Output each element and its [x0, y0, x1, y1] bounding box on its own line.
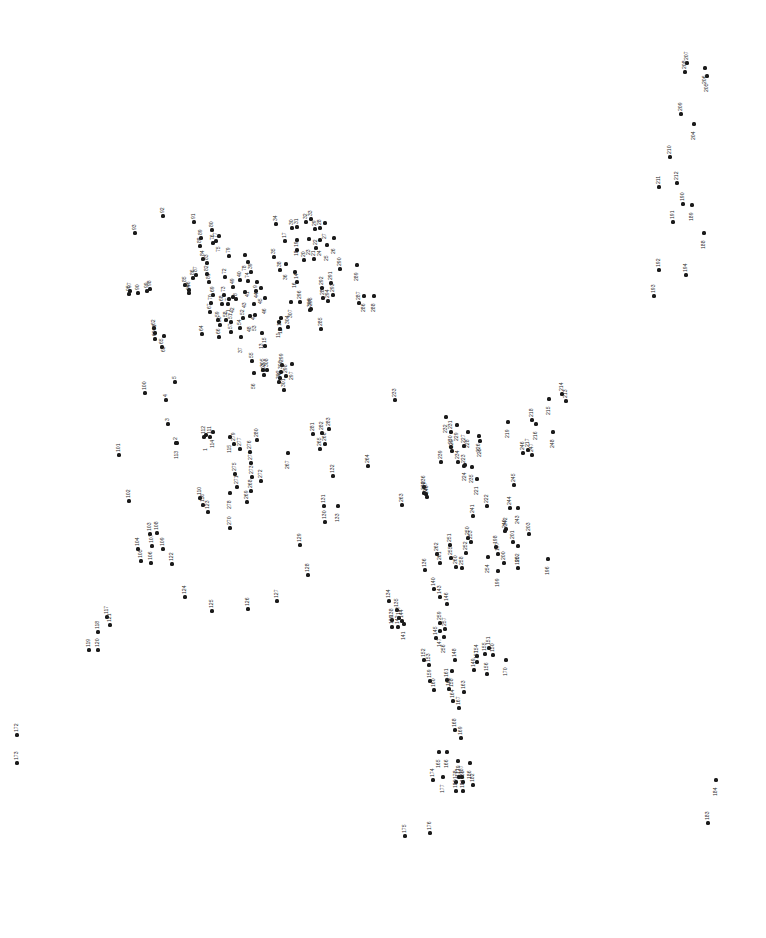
dot-number-label: 203	[526, 522, 531, 531]
dot-marker	[275, 599, 278, 602]
dot-marker	[272, 255, 275, 258]
dot-marker	[456, 460, 459, 463]
dot-marker	[217, 335, 220, 338]
dot-marker	[228, 526, 231, 529]
dot-marker	[198, 244, 201, 247]
dot-marker	[229, 330, 232, 333]
dot-number-label: 54	[237, 319, 242, 325]
dot-marker	[223, 275, 226, 278]
dot-number-label: 297	[289, 372, 294, 381]
dot-marker	[496, 569, 499, 572]
dot-marker	[306, 573, 309, 576]
dot-marker	[425, 495, 428, 498]
dot-marker	[239, 335, 242, 338]
dot-marker	[262, 373, 265, 376]
dot-marker	[461, 780, 464, 783]
dot-number-label: 101	[116, 443, 121, 452]
dot-number-label: 224	[462, 473, 467, 482]
dot-marker	[692, 122, 695, 125]
dot-marker	[207, 280, 210, 283]
dot-marker	[150, 544, 153, 547]
dot-marker	[164, 398, 167, 401]
dot-number-label: 19	[294, 241, 299, 247]
dot-marker	[432, 688, 435, 691]
dot-marker	[323, 442, 326, 445]
dot-marker	[530, 453, 533, 456]
dot-number-label: 176	[427, 821, 432, 830]
dot-marker	[259, 479, 262, 482]
dot-number-label: 109	[160, 537, 165, 546]
dot-marker	[652, 294, 655, 297]
dot-marker	[423, 568, 426, 571]
dot-marker	[684, 273, 687, 276]
dot-number-label: 214	[559, 382, 564, 391]
dot-number-label: 288	[371, 304, 376, 313]
dot-number-label: 188	[701, 241, 706, 250]
dot-marker	[260, 331, 263, 334]
dot-marker	[224, 318, 227, 321]
dot-number-label: 36	[283, 274, 288, 280]
dot-marker	[235, 485, 238, 488]
dot-marker	[175, 441, 178, 444]
dot-number-label: 26	[331, 248, 336, 254]
dot-number-label: 202	[515, 554, 520, 563]
dot-marker	[238, 278, 241, 281]
dot-marker	[194, 273, 197, 276]
dot-number-label: 271	[234, 475, 239, 484]
dot-marker	[312, 257, 315, 260]
dot-number-label: 27	[322, 233, 327, 239]
dot-marker	[457, 706, 460, 709]
dot-number-label: 180	[453, 779, 458, 788]
dot-number-label: 165	[436, 760, 441, 769]
dot-number-label: 56	[251, 383, 256, 389]
dot-marker	[152, 326, 155, 329]
dot-marker	[551, 430, 554, 433]
dot-marker	[208, 435, 211, 438]
dot-marker	[512, 483, 515, 486]
dot-marker	[234, 297, 237, 300]
dot-number-label: 199	[495, 579, 500, 588]
dot-marker	[387, 599, 390, 602]
dot-marker	[96, 630, 99, 633]
dot-marker	[191, 276, 194, 279]
dot-number-label: 210	[667, 145, 672, 154]
dot-marker	[166, 422, 169, 425]
dot-number-label: 148	[452, 648, 457, 657]
dot-marker	[503, 529, 506, 532]
dot-marker	[683, 70, 686, 73]
dot-number-label: 262	[434, 542, 439, 551]
dot-number-label: 175	[402, 824, 407, 833]
dot-marker	[657, 268, 660, 271]
puzzle-canvas: 1234567891011121314151617181920212223242…	[0, 0, 766, 938]
dot-marker	[438, 621, 441, 624]
dot-number-label: 186	[467, 771, 472, 780]
dot-marker	[248, 314, 251, 317]
dot-number-label: 281	[310, 422, 315, 431]
dot-number-label: 298	[283, 364, 288, 373]
dot-number-label: 136	[422, 558, 427, 567]
dot-number-label: 125	[209, 599, 214, 608]
dot-marker	[441, 775, 444, 778]
dot-marker	[472, 668, 475, 671]
dot-number-label: 307	[288, 310, 293, 319]
dot-number-label: 43	[242, 302, 247, 308]
dot-number-label: 252	[463, 541, 468, 550]
dot-marker	[454, 789, 457, 792]
dot-marker	[438, 561, 441, 564]
dot-number-label: 293	[330, 283, 335, 292]
dot-marker	[153, 337, 156, 340]
dot-marker	[485, 504, 488, 507]
dot-marker	[279, 316, 282, 319]
dot-marker	[222, 293, 225, 296]
dot-number-label: 161	[444, 668, 449, 677]
dot-number-label: 114	[210, 440, 215, 448]
dot-marker	[187, 291, 190, 294]
dot-marker	[449, 445, 452, 448]
dot-number-label: 200	[501, 551, 506, 560]
dot-number-label: 100	[142, 381, 147, 390]
dot-marker	[227, 254, 230, 257]
dot-marker	[160, 345, 163, 348]
dot-number-label: 118	[95, 621, 100, 629]
dot-number-label: 72	[222, 268, 227, 274]
dot-marker	[331, 474, 334, 477]
